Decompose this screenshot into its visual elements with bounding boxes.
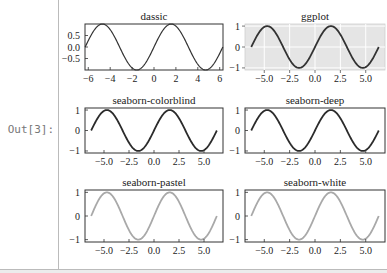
subplot-title: seaborn-pastel (122, 176, 186, 188)
x-tick-label: 4 (195, 73, 200, 84)
y-tick-label: −0.5 (62, 53, 80, 64)
y-tick-label: −1 (229, 145, 240, 156)
x-tick-label: 2 (173, 73, 178, 84)
y-tick-label: 1 (75, 187, 80, 198)
x-tick-label: −2.5 (281, 73, 299, 84)
x-tick-label: 2.5 (334, 73, 347, 84)
y-tick-label: 0 (235, 125, 240, 136)
x-tick-label: 0.0 (148, 156, 161, 167)
subplot-title: seaborn-colorblind (112, 94, 196, 106)
y-tick-label: 0 (75, 211, 80, 222)
x-tick-label: 5.0 (359, 156, 372, 167)
x-tick-label: 2.5 (334, 156, 347, 167)
x-tick-label: −6 (83, 73, 94, 84)
x-tick-label: 5.0 (359, 245, 372, 256)
x-tick-label: 5.0 (198, 245, 211, 256)
x-tick-label: −2.5 (281, 156, 299, 167)
y-tick-label: 1 (75, 105, 80, 116)
subplot-seaborn-deep: −5.0−2.50.02.55.010−1seaborn-deep (229, 94, 385, 167)
x-tick-label: −2.5 (281, 245, 299, 256)
x-tick-label: 2.5 (173, 156, 186, 167)
x-tick-label: −5.0 (255, 245, 273, 256)
subplot-seaborn-white: −5.0−2.50.02.55.010−1seaborn-white (229, 176, 385, 256)
x-tick-label: −2.5 (120, 156, 138, 167)
y-tick-label: 0 (235, 211, 240, 222)
subplot-title: seaborn-white (284, 176, 346, 188)
y-tick-label: 1 (235, 105, 240, 116)
x-tick-label: −4 (105, 73, 116, 84)
subplot-seaborn-pastel: −5.0−2.50.02.55.010−1seaborn-pastel (69, 176, 223, 256)
x-tick-label: 0.0 (309, 245, 322, 256)
x-tick-label: 5.0 (359, 73, 372, 84)
y-tick-label: 0 (235, 42, 240, 53)
x-tick-label: 2.5 (334, 245, 347, 256)
x-tick-label: −5.0 (255, 73, 273, 84)
x-tick-label: 0.0 (309, 156, 322, 167)
x-tick-label: −5.0 (95, 245, 113, 256)
style-comparison-figure: −6−4−202460.50.0−0.5dassic−5.0−2.50.02.5… (0, 0, 387, 273)
subplot-title: dassic (141, 10, 168, 22)
x-tick-label: 0 (152, 73, 157, 84)
subplot-title: seaborn-deep (286, 94, 345, 106)
subplot-title: ggplot (301, 10, 329, 22)
y-tick-label: −1 (69, 234, 80, 245)
x-tick-label: −5.0 (95, 156, 113, 167)
y-tick-label: 0.5 (68, 30, 81, 41)
x-tick-label: −2 (127, 73, 138, 84)
y-tick-label: 0 (75, 125, 80, 136)
y-tick-label: 0.0 (68, 42, 81, 53)
x-tick-label: −2.5 (120, 245, 138, 256)
subplot-classic: −6−4−202460.50.0−0.5dassic (62, 10, 223, 84)
y-tick-label: 1 (235, 21, 240, 32)
x-tick-label: 5.0 (198, 156, 211, 167)
x-tick-label: 2.5 (173, 245, 186, 256)
x-tick-label: 0.0 (148, 245, 161, 256)
x-tick-label: 6 (217, 73, 222, 84)
y-tick-label: 1 (235, 187, 240, 198)
subplot-ggplot: −5.0−2.50.02.55.010−1ggplot (229, 10, 385, 84)
x-tick-label: −5.0 (255, 156, 273, 167)
y-tick-label: −1 (229, 62, 240, 73)
y-tick-label: −1 (69, 145, 80, 156)
x-tick-label: 0.0 (309, 73, 322, 84)
subplot-seaborn-colorblind: −5.0−2.50.02.55.010−1seaborn-colorblind (69, 94, 223, 167)
y-tick-label: −1 (229, 234, 240, 245)
